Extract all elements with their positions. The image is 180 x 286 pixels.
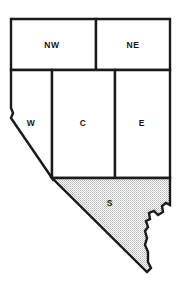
region-label-c: C [80, 118, 87, 128]
region-s[interactable] [52, 178, 170, 272]
nevada-regions-map: NWNEWCES [0, 0, 180, 286]
region-label-s: S [107, 198, 113, 208]
region-label-ne: NE [126, 40, 139, 50]
regions-layer [11, 19, 170, 272]
region-label-e: E [139, 118, 145, 128]
region-label-w: W [27, 118, 36, 128]
region-label-nw: NW [44, 40, 60, 50]
map-svg-canvas: NWNEWCES [0, 0, 180, 286]
